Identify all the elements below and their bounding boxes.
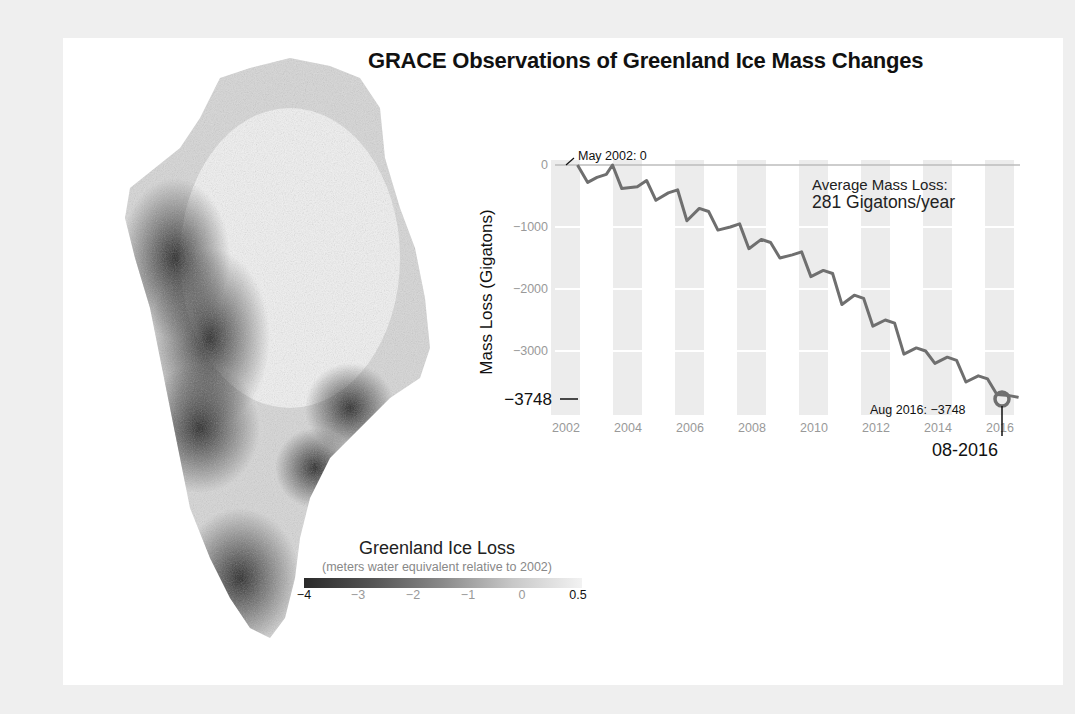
legend-tick: 0 bbox=[519, 588, 526, 602]
svg-text:−2000: −2000 bbox=[513, 282, 548, 296]
average-loss-annotation: Average Mass Loss: 281 Gigatons/year bbox=[812, 176, 955, 213]
legend-tick: −2 bbox=[406, 588, 420, 602]
legend-tick: −3 bbox=[351, 588, 365, 602]
svg-text:−1000: −1000 bbox=[513, 220, 548, 234]
svg-text:2004: 2004 bbox=[614, 421, 642, 435]
svg-text:2016: 2016 bbox=[986, 421, 1014, 435]
current-date-label: 08-2016 bbox=[932, 440, 998, 461]
svg-text:2008: 2008 bbox=[738, 421, 766, 435]
map-legend: Greenland Ice Loss (meters water equival… bbox=[272, 538, 602, 604]
svg-text:2014: 2014 bbox=[924, 421, 952, 435]
svg-text:2006: 2006 bbox=[676, 421, 704, 435]
y-ticks: 0−1000−2000−3000 bbox=[513, 158, 548, 358]
svg-text:2010: 2010 bbox=[800, 421, 828, 435]
legend-tick: −4 bbox=[297, 588, 311, 602]
svg-text:2002: 2002 bbox=[552, 421, 580, 435]
current-value-label: −3748 bbox=[504, 390, 552, 409]
legend-tick: −1 bbox=[461, 588, 475, 602]
start-annotation: May 2002: 0 bbox=[578, 149, 647, 163]
legend-subtitle: (meters water equivalent relative to 200… bbox=[272, 560, 602, 574]
svg-text:0: 0 bbox=[541, 158, 548, 172]
mass-loss-chart: 0−1000−2000−3000 20022004200620082010201… bbox=[470, 140, 1070, 480]
x-ticks: 20022004200620082010201220142016 bbox=[552, 421, 1014, 435]
legend-ticks: −4 −3 −2 −1 0 0.5 bbox=[272, 588, 602, 604]
avg-label-line2: 281 Gigatons/year bbox=[812, 192, 955, 213]
legend-title: Greenland Ice Loss bbox=[272, 538, 602, 559]
avg-label-line1: Average Mass Loss: bbox=[812, 176, 955, 193]
end-annotation: Aug 2016: −3748 bbox=[870, 403, 966, 417]
legend-tick: 0.5 bbox=[569, 588, 586, 602]
legend-color-bar bbox=[304, 578, 582, 588]
svg-text:−3000: −3000 bbox=[513, 344, 548, 358]
svg-text:2012: 2012 bbox=[862, 421, 890, 435]
